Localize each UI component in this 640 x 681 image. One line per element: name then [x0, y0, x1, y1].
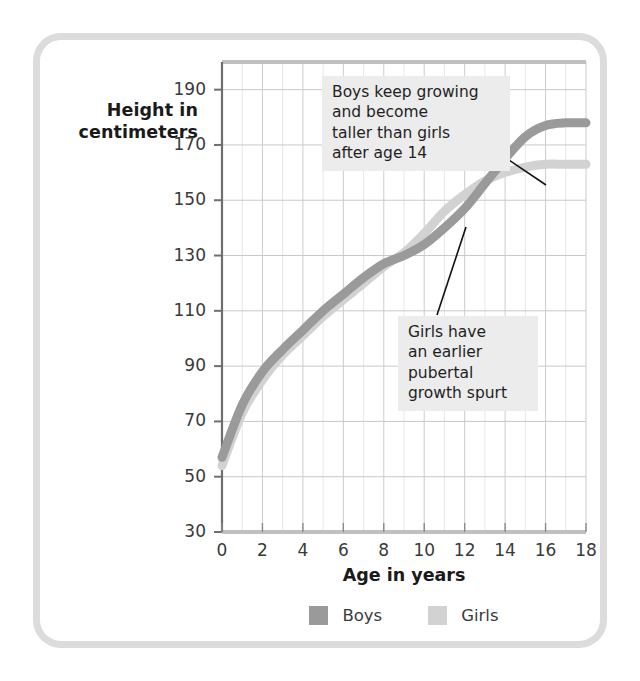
y-tick-label: 170	[166, 134, 206, 154]
legend-label: Boys	[342, 606, 382, 625]
y-tick-label: 30	[166, 521, 206, 541]
y-tick-label: 90	[166, 355, 206, 375]
chart-legend: BoysGirls	[222, 606, 586, 625]
y-tick-label: 50	[166, 466, 206, 486]
boys-annotation: Boys keep growing and become taller than…	[322, 76, 510, 171]
legend-item[interactable]: Boys	[309, 606, 382, 625]
y-axis-title-line-1: Height in	[46, 100, 198, 122]
legend-item[interactable]: Girls	[428, 606, 498, 625]
x-tick-label: 8	[369, 540, 399, 560]
x-tick-label: 12	[450, 540, 480, 560]
x-tick-label: 16	[531, 540, 561, 560]
legend-swatch-icon	[428, 606, 447, 625]
girls-annotation: Girls have an earlier pubertal growth sp…	[398, 316, 538, 411]
x-tick-label: 10	[409, 540, 439, 560]
y-tick-label: 150	[166, 189, 206, 209]
chart-page: Height in centimeters Age in years 30507…	[0, 0, 640, 681]
legend-label: Girls	[461, 606, 498, 625]
legend-swatch-icon	[309, 606, 328, 625]
y-tick-label: 70	[166, 410, 206, 430]
x-tick-label: 2	[247, 540, 277, 560]
growth-chart-figure: Height in centimeters Age in years 30507…	[0, 0, 640, 681]
x-tick-label: 18	[571, 540, 601, 560]
x-axis-title: Age in years	[222, 565, 586, 585]
x-tick-label: 14	[490, 540, 520, 560]
x-tick-label: 4	[288, 540, 318, 560]
x-tick-label: 6	[328, 540, 358, 560]
y-tick-label: 130	[166, 245, 206, 265]
x-tick-label: 0	[207, 540, 237, 560]
y-tick-label: 110	[166, 300, 206, 320]
y-tick-label: 190	[166, 79, 206, 99]
